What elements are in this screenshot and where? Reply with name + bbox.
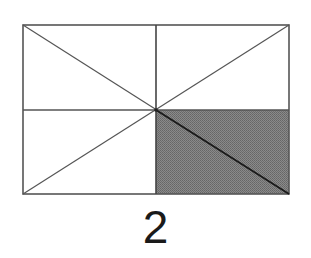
center-point — [154, 108, 158, 112]
figure-label: 2 — [0, 202, 311, 252]
